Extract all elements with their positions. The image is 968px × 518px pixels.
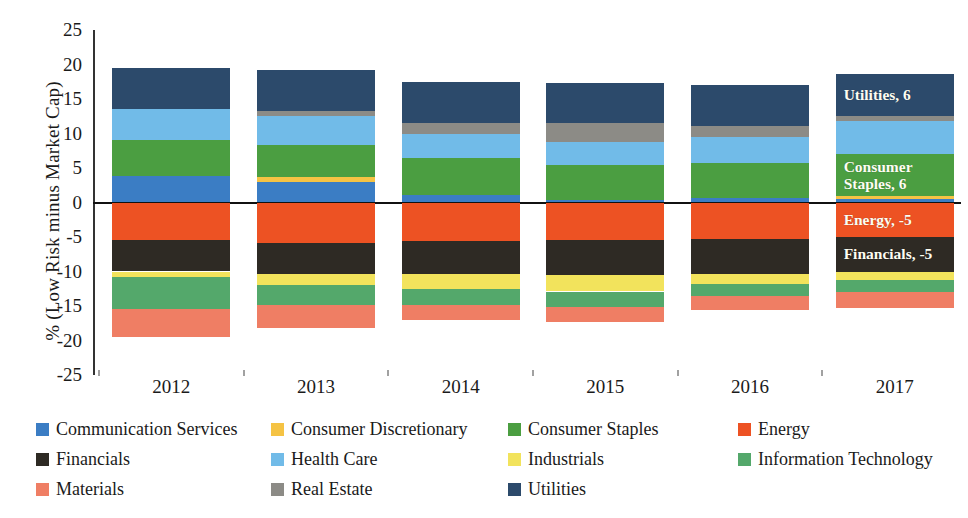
bar-segment[interactable] bbox=[546, 142, 664, 165]
x-axis-tick bbox=[99, 370, 100, 376]
bar-group-2015[interactable] bbox=[546, 30, 664, 375]
legend-item[interactable]: Communication Services bbox=[36, 419, 271, 440]
bar-group-2014[interactable] bbox=[402, 30, 520, 375]
bar-segment[interactable]: Utilities, 6 bbox=[836, 74, 954, 115]
bar-segment[interactable] bbox=[257, 116, 375, 145]
bar-segment[interactable] bbox=[112, 203, 230, 241]
legend-swatch-icon bbox=[36, 423, 49, 436]
bar-segment[interactable] bbox=[691, 274, 809, 284]
bar-segment[interactable] bbox=[546, 165, 664, 200]
bar-segment[interactable] bbox=[257, 203, 375, 243]
bar-segment[interactable] bbox=[836, 292, 954, 308]
bar-segment[interactable] bbox=[257, 177, 375, 183]
legend-swatch-icon bbox=[508, 483, 521, 496]
bar-segment[interactable] bbox=[257, 145, 375, 177]
bar-segment[interactable] bbox=[257, 182, 375, 202]
bar-segment[interactable] bbox=[402, 289, 520, 305]
bar-segment[interactable] bbox=[402, 305, 520, 319]
bar-segment[interactable] bbox=[836, 196, 954, 199]
bar-segment[interactable] bbox=[546, 83, 664, 123]
legend-item[interactable]: Energy bbox=[738, 419, 956, 440]
legend-item[interactable]: Health Care bbox=[271, 449, 508, 470]
bar-segment[interactable] bbox=[691, 239, 809, 274]
bar-group-2017[interactable]: Consumer Staples, 6Utilities, 6Energy, -… bbox=[836, 30, 954, 375]
bar-segment[interactable] bbox=[112, 109, 230, 140]
x-axis-label: 2016 bbox=[731, 376, 769, 398]
bar-segment[interactable] bbox=[257, 274, 375, 285]
legend-item[interactable]: Information Technology bbox=[738, 449, 956, 470]
legend-item[interactable]: Real Estate bbox=[271, 479, 508, 500]
y-tick-label: 0 bbox=[4, 192, 90, 214]
bar-segment[interactable] bbox=[691, 203, 809, 240]
bar-segment[interactable] bbox=[112, 240, 230, 271]
bar-segment[interactable]: Financials, -5 bbox=[836, 237, 954, 272]
x-axis-label: 2015 bbox=[586, 376, 624, 398]
bar-segment[interactable] bbox=[402, 158, 520, 195]
bar-segment[interactable] bbox=[836, 116, 954, 122]
bar-segment[interactable] bbox=[402, 134, 520, 157]
legend-label: Industrials bbox=[528, 449, 604, 470]
bar-segment[interactable] bbox=[112, 68, 230, 109]
legend-label: Consumer Discretionary bbox=[291, 419, 467, 440]
bar-segment[interactable] bbox=[112, 309, 230, 337]
bar-segment[interactable] bbox=[257, 243, 375, 274]
segment-data-label: Utilities, 6 bbox=[844, 86, 950, 103]
bar-segment[interactable] bbox=[402, 241, 520, 274]
bar-segment[interactable] bbox=[691, 284, 809, 296]
legend-label: Communication Services bbox=[56, 419, 237, 440]
legend-label: Energy bbox=[758, 419, 810, 440]
bar-segment[interactable]: Consumer Staples, 6 bbox=[836, 154, 954, 195]
bar-segment[interactable] bbox=[691, 296, 809, 310]
bar-segment[interactable] bbox=[402, 82, 520, 123]
bar-segment[interactable]: Energy, -5 bbox=[836, 203, 954, 238]
bar-segment[interactable] bbox=[402, 123, 520, 134]
bar-segment[interactable] bbox=[257, 305, 375, 328]
bar-segment[interactable] bbox=[836, 272, 954, 280]
bar-segment[interactable] bbox=[402, 274, 520, 289]
bar-group-2016[interactable] bbox=[691, 30, 809, 375]
bar-segment[interactable] bbox=[112, 277, 230, 309]
bar-segment[interactable] bbox=[691, 137, 809, 163]
y-axis-tick-labels: 2520151050-5-10-15-20-25 bbox=[0, 30, 90, 375]
legend-item[interactable]: Industrials bbox=[508, 449, 738, 470]
bar-segment[interactable] bbox=[257, 111, 375, 116]
y-tick-label: -5 bbox=[4, 226, 90, 248]
segment-data-label: Energy, -5 bbox=[844, 211, 950, 228]
y-tick-label: 25 bbox=[4, 19, 90, 41]
bar-segment[interactable] bbox=[836, 280, 954, 292]
bar-segment[interactable] bbox=[546, 203, 664, 241]
bar-segment[interactable] bbox=[691, 85, 809, 126]
bar-segment[interactable] bbox=[691, 163, 809, 198]
bar-segment[interactable] bbox=[112, 140, 230, 176]
bar-group-2012[interactable] bbox=[112, 30, 230, 375]
legend-item[interactable]: Materials bbox=[36, 479, 271, 500]
legend-swatch-icon bbox=[271, 453, 284, 466]
y-tick-label: -15 bbox=[4, 295, 90, 317]
legend-item[interactable]: Utilities bbox=[508, 479, 738, 500]
legend-label: Information Technology bbox=[758, 449, 933, 470]
bar-segment[interactable] bbox=[546, 307, 664, 322]
legend-item[interactable]: Consumer Discretionary bbox=[271, 419, 508, 440]
bar-segment[interactable] bbox=[402, 195, 520, 203]
bar-segment[interactable] bbox=[691, 126, 809, 137]
legend-swatch-icon bbox=[738, 453, 751, 466]
y-tick-label: -20 bbox=[4, 330, 90, 352]
bar-segment[interactable] bbox=[836, 121, 954, 154]
bar-segment[interactable] bbox=[257, 70, 375, 111]
bar-segment[interactable] bbox=[546, 292, 664, 307]
legend-item[interactable]: Consumer Staples bbox=[508, 419, 738, 440]
bar-segment[interactable] bbox=[402, 203, 520, 242]
bar-segment[interactable] bbox=[257, 285, 375, 306]
legend-swatch-icon bbox=[271, 423, 284, 436]
legend-item[interactable]: Financials bbox=[36, 449, 271, 470]
bar-segment[interactable] bbox=[546, 275, 664, 292]
bar-segment[interactable] bbox=[112, 176, 230, 203]
bar-segment[interactable] bbox=[546, 123, 664, 142]
legend-swatch-icon bbox=[738, 423, 751, 436]
bar-group-2013[interactable] bbox=[257, 30, 375, 375]
legend-label: Financials bbox=[56, 449, 130, 470]
segment-data-label: Financials, -5 bbox=[844, 246, 950, 263]
x-axis-tick bbox=[822, 370, 823, 376]
y-tick-label: 10 bbox=[4, 123, 90, 145]
bar-segment[interactable] bbox=[546, 240, 664, 275]
